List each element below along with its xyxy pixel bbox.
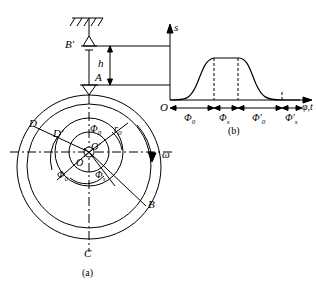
tick-glyph-2: Φ' xyxy=(252,112,262,123)
label-omega: ω xyxy=(162,149,170,160)
label-phis-lower-glyph: Φ xyxy=(95,169,103,180)
fixed-support-hatching xyxy=(70,18,103,26)
caption-a: (a) xyxy=(82,268,93,278)
tick-glyph-1: Φ xyxy=(219,112,227,123)
label-phi0-lower-glyph: Φ xyxy=(57,169,65,180)
tick-label-3: Φ's xyxy=(285,113,298,126)
label-c: C xyxy=(84,248,91,259)
label-s-axis: s xyxy=(174,22,178,33)
cam-mechanism-figure: B' A h D D' O' O B C ω Φ0 r0 Φ0 Φs s O φ… xyxy=(0,0,316,289)
label-b: B xyxy=(148,199,155,210)
label-a: A xyxy=(95,72,102,83)
follower-tip-triangle xyxy=(80,85,98,95)
displacement-curve xyxy=(170,58,300,100)
tick-label-0: Φ0 xyxy=(184,113,195,126)
lift-dimension xyxy=(95,46,170,85)
label-b-prime: B' xyxy=(65,39,74,50)
label-phi0-top-glyph: Φ xyxy=(90,123,98,134)
follower-stem xyxy=(85,18,93,95)
caption-b: (b) xyxy=(228,126,240,136)
label-o: O xyxy=(76,158,83,168)
label-r0: r0 xyxy=(114,124,121,137)
label-o-prime: O' xyxy=(91,142,100,152)
tick-glyph-0: Φ xyxy=(184,112,192,123)
tick-glyph-3: Φ' xyxy=(285,112,295,123)
label-phis-lower: Φs xyxy=(95,170,105,183)
label-phi0-top: Φ0 xyxy=(90,124,101,137)
label-origin-o: O xyxy=(160,102,168,113)
tick-label-2: Φ'0 xyxy=(252,113,265,126)
label-phi0-top-sub: 0 xyxy=(98,129,102,137)
label-d-prime: D' xyxy=(53,128,63,139)
label-x-axis: φ,t xyxy=(302,102,313,112)
label-d: D xyxy=(29,118,37,129)
label-h: h xyxy=(98,58,104,69)
follower-guide-triangle xyxy=(81,36,97,46)
label-r0-sub: 0 xyxy=(118,129,122,137)
label-phis-lower-sub: s xyxy=(103,175,106,183)
tick-sub-0: 0 xyxy=(192,118,196,126)
figure-vector-graphics xyxy=(0,0,316,289)
tick-sub-3: s xyxy=(295,118,298,126)
tick-sub-2: 0 xyxy=(262,118,266,126)
diagram-axes xyxy=(167,24,312,103)
label-phi0-lower: Φ0 xyxy=(57,170,68,183)
label-phi0-lower-sub: 0 xyxy=(65,175,69,183)
diagram-segment-arrows xyxy=(170,106,302,111)
